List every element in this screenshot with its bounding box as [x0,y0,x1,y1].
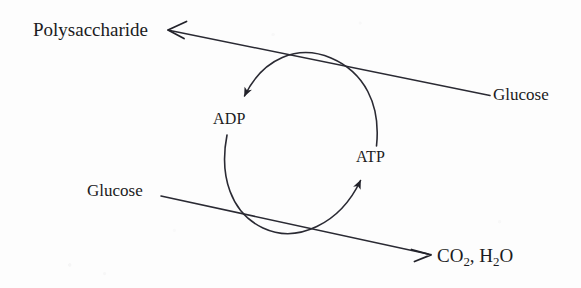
label-polysaccharide: Polysaccharide [33,20,148,39]
label-atp: ATP [356,149,385,165]
biochemistry-cycle-diagram: Polysaccharide Glucose Glucose ADP ATP C… [0,0,581,288]
h2o-oxygen: O [500,245,514,266]
co2-formula-base: CO [437,245,463,266]
label-glucose-left: Glucose [87,182,143,199]
label-co2-h2o: CO2, H2O [437,246,513,269]
formula-separator: , H [470,245,493,266]
glucose-to-co2-shaft [161,196,428,254]
glucose-to-polysaccharide-shaft [170,31,490,96]
adp-to-atp-arc [225,135,361,233]
label-adp: ADP [213,111,246,127]
label-glucose-right: Glucose [493,86,549,103]
diagram-vector-layer [0,0,581,288]
atp-to-adp-arc [245,53,378,146]
